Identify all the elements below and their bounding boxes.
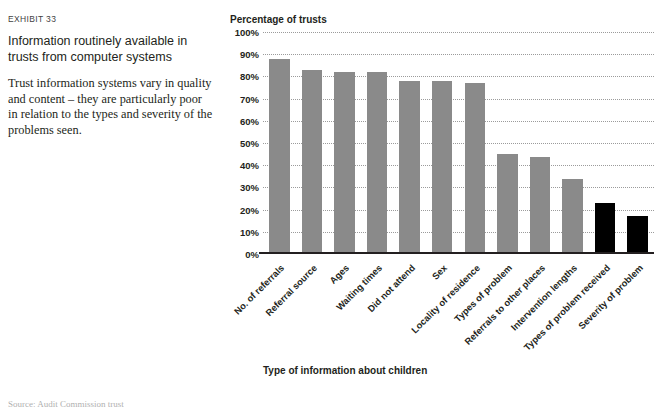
x-tick-label-text: Ages bbox=[328, 263, 351, 286]
exhibit-description: Trust information systems vary in qualit… bbox=[8, 76, 213, 138]
exhibit-text-panel: EXHIBIT 33 Information routinely availab… bbox=[8, 14, 213, 138]
y-tick-0: 0% bbox=[245, 249, 259, 260]
y-tick-40: 40% bbox=[240, 160, 259, 171]
exhibit-page: EXHIBIT 33 Information routinely availab… bbox=[0, 0, 661, 408]
bar-chart: Percentage of trusts 0%10%20%30%40%50%60… bbox=[226, 14, 654, 344]
y-tick-80: 80% bbox=[240, 71, 259, 82]
bar bbox=[465, 83, 486, 252]
bar bbox=[367, 72, 388, 252]
y-tick-100: 100% bbox=[235, 27, 259, 38]
source-note: Source: Audit Commission trust bbox=[8, 399, 124, 408]
bar-slot bbox=[458, 32, 491, 252]
y-axis-tick-labels: 0%10%20%30%40%50%60%70%80%90%100% bbox=[226, 32, 259, 254]
bar bbox=[269, 59, 290, 252]
y-tick-30: 30% bbox=[240, 182, 259, 193]
exhibit-number-label: EXHIBIT 33 bbox=[8, 14, 213, 24]
y-tick-20: 20% bbox=[240, 204, 259, 215]
y-tick-10: 10% bbox=[240, 226, 259, 237]
exhibit-title: Information routinely available in trust… bbox=[8, 33, 213, 65]
bar-slot bbox=[393, 32, 426, 252]
bar-slot bbox=[263, 32, 296, 252]
chart-x-axis-title: Type of information about children bbox=[263, 365, 427, 376]
x-label-slot: Did not attend bbox=[393, 258, 426, 354]
chart-y-axis-title: Percentage of trusts bbox=[230, 14, 654, 25]
x-label-slot: Severity of problem bbox=[621, 258, 654, 354]
y-tick-60: 60% bbox=[240, 115, 259, 126]
x-label-slot: Referral source bbox=[296, 258, 329, 354]
plot-zone: 0%10%20%30%40%50%60%70%80%90%100% No. of… bbox=[226, 32, 654, 272]
y-tick-70: 70% bbox=[240, 93, 259, 104]
y-tick-90: 90% bbox=[240, 49, 259, 60]
x-tick-label-text: Sex bbox=[430, 263, 449, 282]
x-axis-tick-labels: No. of referralsReferral sourceAgesWaiti… bbox=[263, 258, 654, 354]
y-tick-50: 50% bbox=[240, 138, 259, 149]
